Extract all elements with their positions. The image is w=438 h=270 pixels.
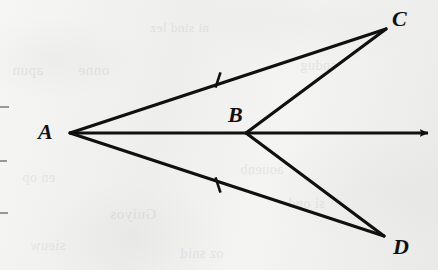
page-margin-tick-left-upper: [0, 106, 9, 108]
vertex-label-d: D: [393, 236, 409, 258]
vertex-label-c: C: [392, 8, 407, 30]
vertex-label-b: B: [228, 104, 243, 126]
geometry-figure: [0, 0, 438, 270]
diagram-canvas: apunonneni sind lezsndugen opGuiyosaouen…: [0, 0, 438, 270]
tick-mark-segment-ad: [216, 177, 221, 192]
page-margin-tick-left-mid: [0, 160, 7, 162]
segment-bd: [246, 133, 384, 236]
vertex-label-a: A: [38, 121, 53, 143]
page-margin-tick-left-lower: [0, 212, 8, 214]
segment-bc: [246, 29, 386, 133]
segment-ad: [70, 133, 384, 236]
